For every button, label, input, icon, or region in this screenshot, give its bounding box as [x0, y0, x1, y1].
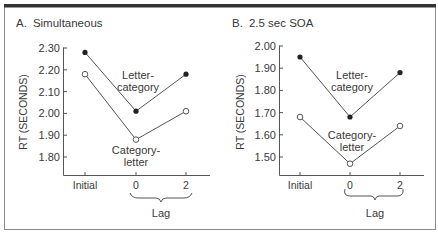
panel-a-y-ticks: 2.30 2.20 2.10 2.00 1.90 1.80	[39, 42, 60, 163]
panel-a: A.Simultaneous RT (SECONDS) 2.30 2.20 2.…	[16, 17, 210, 219]
series-label-category-letter: Category-	[328, 129, 377, 141]
figure-top-rule	[4, 4, 436, 8]
panel-b-y-ticks: 2.00 1.90 1.80 1.70 1.60 1.50	[255, 40, 276, 163]
panel-b-label: B.2.5 sec SOA	[232, 17, 314, 29]
data-point-open	[183, 108, 189, 114]
data-point-filled	[397, 70, 402, 75]
series-label-category-letter: letter	[124, 156, 149, 168]
panel-b-axes	[280, 46, 425, 176]
y-tick-label: 2.00	[255, 40, 276, 52]
data-point-open	[297, 114, 303, 120]
y-tick-label: 1.90	[39, 129, 60, 141]
panel-a-lag-brace	[130, 193, 192, 202]
y-tick-label: 2.10	[39, 86, 60, 98]
panel-b: B.2.5 sec SOA RT (SECONDS) 2.00 1.90 1.8…	[232, 17, 424, 219]
x-tick-label: Initial	[73, 179, 98, 191]
panel-b-lag-brace	[345, 189, 404, 200]
y-tick-label: 1.90	[255, 62, 276, 74]
data-point-filled	[347, 114, 352, 119]
x-tick-label: 0	[347, 179, 353, 191]
x-tick-label: 2	[183, 179, 189, 191]
panel-a-y-axis-title: RT (SECONDS)	[17, 74, 29, 149]
x-tick-label: Initial	[288, 179, 313, 191]
y-tick-label: 2.00	[39, 107, 60, 119]
panel-a-label: A.Simultaneous	[16, 17, 103, 29]
data-point-filled	[82, 50, 87, 55]
series-label-letter-category: category	[331, 81, 374, 93]
panel-a-x-ticks: Initial 0 2	[73, 179, 189, 191]
panel-a-x-axis-title: Lag	[152, 207, 170, 219]
panel-b-series-labels: Letter- category Category- letter	[328, 69, 377, 153]
y-tick-label: 1.80	[39, 151, 60, 163]
panel-b-x-axis-title: Lag	[366, 207, 384, 219]
panel-b-y-axis-title: RT (SECONDS)	[234, 74, 246, 149]
data-point-filled	[183, 72, 188, 77]
series-label-letter-category: category	[117, 81, 160, 93]
y-tick-label: 2.20	[39, 64, 60, 76]
x-tick-label: 0	[133, 179, 139, 191]
y-tick-label: 2.30	[39, 42, 60, 54]
y-tick-label: 1.60	[255, 129, 276, 141]
data-point-open	[347, 161, 353, 167]
data-point-filled	[133, 109, 138, 114]
data-point-open	[82, 71, 88, 77]
series-label-letter-category: Letter-	[336, 69, 368, 81]
y-tick-label: 1.80	[255, 84, 276, 96]
series-label-category-letter: letter	[340, 141, 365, 153]
figure: A.Simultaneous RT (SECONDS) 2.30 2.20 2.…	[0, 0, 438, 235]
data-point-filled	[297, 54, 302, 59]
y-tick-label: 1.70	[255, 107, 276, 119]
data-point-open	[397, 123, 403, 129]
x-tick-label: 2	[397, 179, 403, 191]
series-label-category-letter: Category-	[112, 144, 161, 156]
series-label-letter-category: Letter-	[122, 69, 154, 81]
data-point-open	[133, 137, 139, 143]
y-tick-label: 1.50	[255, 151, 276, 163]
